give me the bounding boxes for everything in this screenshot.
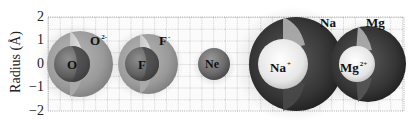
y-tick-0: 0 bbox=[22, 57, 44, 71]
label-mg-atom: Mg bbox=[366, 16, 385, 29]
label-ne-atom: Ne bbox=[205, 58, 219, 71]
label-na-atom: Na bbox=[320, 16, 336, 29]
y-tick-2: 2 bbox=[22, 10, 44, 24]
fluorine-spheres bbox=[108, 28, 184, 100]
label-o2-ion: O2- bbox=[90, 31, 107, 47]
oxygen-spheres bbox=[36, 24, 120, 104]
label-f-ion: F- bbox=[159, 31, 170, 47]
label-o-atom: O bbox=[67, 58, 77, 71]
y-tick-minus-2: −2 bbox=[22, 104, 44, 118]
label-mg-ion: Mg2+ bbox=[340, 58, 367, 74]
y-axis-label: Radius (Å) bbox=[8, 22, 24, 102]
label-f-atom: F bbox=[138, 58, 146, 71]
y-tick-1: 1 bbox=[22, 33, 44, 47]
label-na-ion: Na+ bbox=[270, 58, 291, 74]
ionic-radius-figure: 2 1 0 −1 −2 Radius (Å) O2- O F- F Ne Na … bbox=[0, 0, 415, 122]
y-tick-minus-1: −1 bbox=[22, 80, 44, 94]
